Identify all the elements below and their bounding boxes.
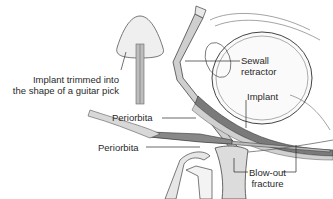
sewall-retractor-label: Sewall retractor xyxy=(241,55,276,77)
guitar-pick-implant xyxy=(117,16,164,104)
periorbita-lower-label: Periorbita xyxy=(98,142,139,153)
blowout-fracture-label: Blow-out fracture xyxy=(249,167,286,189)
implant-trimmed-label: Implant trimmed into the shape of a guit… xyxy=(4,74,119,96)
periorbita-upper-label: Periorbita xyxy=(112,112,153,123)
implant-label: Implant xyxy=(247,91,278,102)
blowout-label-line1: Blow-out xyxy=(249,167,286,178)
implant-trimmed-label-line1: Implant trimmed into xyxy=(4,74,119,85)
implant-trimmed-label-line2: the shape of a guitar pick xyxy=(4,85,119,96)
sewall-label-line1: Sewall xyxy=(241,55,276,66)
blowout-label-line2: fracture xyxy=(249,178,286,189)
sewall-label-line2: retractor xyxy=(241,66,276,77)
